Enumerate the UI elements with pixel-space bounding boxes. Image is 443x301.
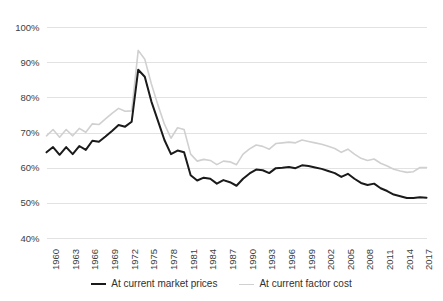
x-axis-tick-label: 2002	[326, 248, 336, 269]
x-axis-tick-label: 1975	[149, 248, 159, 269]
y-axis-tick-label: 50%	[20, 198, 39, 208]
x-axis-tick-label: 1984	[208, 248, 218, 269]
chart-plot-svg	[0, 0, 443, 301]
chart-container: 100%90%80%70%60%50%40% 19601963196619691…	[0, 0, 443, 301]
y-axis-tick-label: 40%	[20, 234, 39, 244]
x-axis-tick-label: 1993	[267, 248, 277, 269]
x-axis-tick-label: 1987	[228, 248, 238, 269]
x-axis-tick-label: 1996	[287, 248, 297, 269]
x-axis-tick-label: 1978	[169, 248, 179, 269]
y-axis-tick-label: 90%	[20, 58, 39, 68]
gridlines	[47, 28, 427, 239]
legend-entry: At current market prices	[91, 279, 217, 289]
legend-color-swatch	[91, 283, 106, 285]
x-axis-tick-label: 1969	[110, 248, 120, 269]
series-line	[47, 50, 427, 172]
x-axis-tick-label: 1960	[51, 248, 61, 269]
x-axis-tick-label: 2005	[346, 248, 356, 269]
y-axis-tick-label: 70%	[20, 128, 39, 138]
x-axis-tick-label: 2011	[385, 249, 395, 269]
x-axis-tick-label: 1999	[307, 248, 317, 269]
x-axis-tick-label: 1990	[248, 248, 258, 269]
x-axis-tick-label: 1963	[71, 248, 81, 269]
x-axis-tick-label: 2014	[405, 248, 415, 269]
legend-entry: At current factor cost	[239, 279, 351, 289]
y-axis-tick-label: 100%	[15, 23, 39, 33]
y-axis-tick-label: 80%	[20, 93, 39, 103]
x-axis-tick-label: 2017	[424, 248, 434, 269]
series-line	[47, 70, 427, 198]
x-axis-tick-label: 1966	[90, 248, 100, 269]
x-axis-tick-label: 2008	[365, 248, 375, 269]
legend-color-swatch	[239, 284, 254, 285]
y-axis-tick-label: 60%	[20, 163, 39, 173]
chart-legend: At current market pricesAt current facto…	[0, 279, 443, 289]
legend-label: At current market prices	[111, 279, 217, 289]
data-series-group	[47, 50, 427, 198]
legend-label: At current factor cost	[259, 279, 351, 289]
x-axis-tick-label: 1981	[189, 248, 199, 269]
x-axis-tick-label: 1972	[130, 248, 140, 269]
